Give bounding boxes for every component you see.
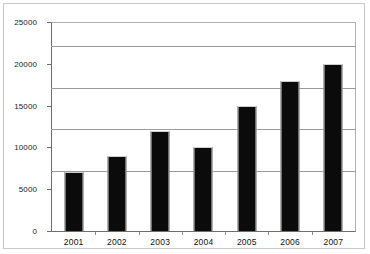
bar-slot: [139, 22, 182, 231]
bar[interactable]: [64, 172, 83, 231]
bar-slot: [268, 22, 311, 231]
bar-slot: [312, 22, 355, 231]
bar[interactable]: [237, 106, 256, 231]
x-axis-tick-label: 2003: [150, 237, 170, 247]
bar-slot: [182, 22, 225, 231]
y-tick-mark: [47, 189, 51, 190]
y-axis-tick-label: 25000: [14, 18, 37, 27]
y-axis-tick-label: 0: [32, 227, 37, 236]
y-tick-mark: [47, 106, 51, 107]
x-tick-mark: [182, 232, 183, 235]
y-axis-tick-label: 10000: [14, 143, 37, 152]
x-axis-tick-label: 2006: [280, 237, 300, 247]
x-tick-mark: [312, 232, 313, 235]
bar-slot: [52, 22, 95, 231]
x-axis-tick-label: 2002: [107, 237, 127, 247]
y-tick-mark: [47, 231, 51, 232]
y-axis-tick-label: 15000: [14, 101, 37, 110]
bar[interactable]: [281, 81, 300, 231]
x-tick-mark: [225, 232, 226, 235]
x-tick-mark: [95, 232, 96, 235]
x-tick-mark: [139, 232, 140, 235]
bar-chart-screenshot: 0500010000150002000025000 20012002200320…: [0, 0, 370, 254]
x-axis-tick-label: 2007: [323, 237, 343, 247]
bar[interactable]: [194, 147, 213, 231]
bar-slot: [95, 22, 138, 231]
x-axis-tick-label: 2005: [237, 237, 257, 247]
y-tick-mark: [47, 64, 51, 65]
bar-series: [52, 22, 355, 231]
y-tick-mark: [47, 147, 51, 148]
x-tick-mark: [268, 232, 269, 235]
y-axis-tick-label: 5000: [19, 185, 37, 194]
bar[interactable]: [107, 156, 126, 231]
y-axis-tick-label: 20000: [14, 59, 37, 68]
figure-frame: 0500010000150002000025000 20012002200320…: [3, 3, 365, 249]
y-tick-mark: [47, 22, 51, 23]
x-axis-tick-label: 2001: [64, 237, 84, 247]
x-axis-tick-label: 2004: [194, 237, 214, 247]
bar[interactable]: [151, 131, 170, 231]
bar-slot: [225, 22, 268, 231]
bar[interactable]: [324, 64, 343, 231]
